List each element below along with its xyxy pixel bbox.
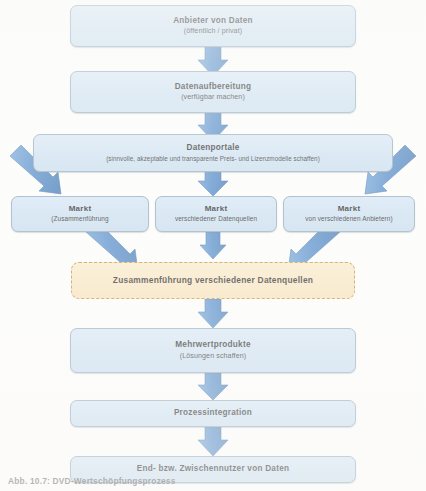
- node-title: Markt: [338, 204, 361, 214]
- node-title: Datenportale: [186, 143, 239, 153]
- arrow-portale-to-markt-mitte: [198, 170, 228, 196]
- node-zusammenfuehrung-datenquellen[interactable]: Zusammenführung verschiedener Datenquell…: [71, 262, 355, 299]
- node-subtitle: (sinnvolle, akzeptable und transparente …: [106, 155, 320, 163]
- node-title: Mehrwertprodukte: [175, 340, 250, 350]
- node-title: Markt: [69, 204, 92, 214]
- node-title: End- bzw. Zwischennutzer von Daten: [137, 464, 289, 474]
- node-markt-anbietern[interactable]: Markt von verschiedenen Anbietern): [283, 196, 415, 232]
- node-subtitle: (Lösungen schaffen): [180, 352, 246, 361]
- figure-canvas: Anbieter von Daten (öffentlich / privat)…: [0, 0, 426, 491]
- arrow-prozess-to-nutzer: [198, 427, 228, 456]
- node-subtitle: (verfügbar machen): [181, 93, 245, 102]
- node-title: Anbieter von Daten: [173, 16, 253, 26]
- node-subtitle: verschiedener Datenquellen: [175, 215, 257, 223]
- figure-caption: Abb. 10.7: DVD-Wertschöpfungsprozess: [8, 476, 426, 486]
- node-title: Datenaufbereitung: [175, 82, 252, 92]
- node-datenportale[interactable]: Datenportale (sinnvolle, akzeptable und …: [33, 134, 393, 172]
- node-title: Zusammenführung verschiedener Datenquell…: [113, 275, 313, 286]
- node-title: Markt: [205, 204, 228, 214]
- node-subtitle: (Zusammenführung: [51, 215, 108, 223]
- node-title: Prozessintegration: [174, 408, 252, 418]
- node-mehrwertprodukte[interactable]: Mehrwertprodukte (Lösungen schaffen): [70, 328, 356, 373]
- node-subtitle: von verschiedenen Anbietern): [305, 215, 392, 223]
- node-markt-datenquellen[interactable]: Markt verschiedener Datenquellen: [155, 196, 277, 232]
- node-subtitle: (öffentlich / privat): [184, 27, 242, 36]
- arrow-zusammenfuehrung-to-mehrwert: [198, 299, 228, 328]
- node-datenaufbereitung[interactable]: Datenaufbereitung (verfügbar machen): [70, 71, 356, 113]
- arrow-markt-mitte-to-zusammenfuehrung: [200, 232, 226, 259]
- node-anbieter-von-daten[interactable]: Anbieter von Daten (öffentlich / privat): [70, 5, 356, 47]
- node-markt-zusammenfuehrung[interactable]: Markt (Zusammenführung: [11, 196, 149, 232]
- node-prozessintegration[interactable]: Prozessintegration: [70, 400, 356, 427]
- arrow-mehrwert-to-prozess: [198, 373, 228, 400]
